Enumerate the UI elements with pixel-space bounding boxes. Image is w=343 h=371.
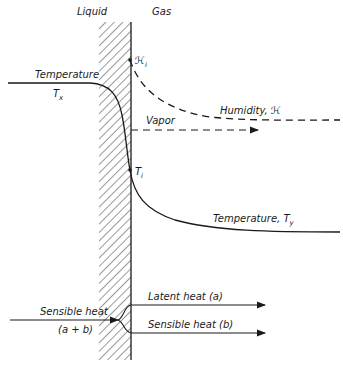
ti-point: [128, 168, 132, 172]
sensible-heat-sum-label: (a + b): [58, 324, 93, 335]
temperature-gas-label: Temperature, Ty: [213, 213, 295, 227]
tx-label: Tx: [53, 88, 64, 102]
sensible-heat-out-label: Sensible heat (b): [148, 319, 233, 330]
temperature-liquid-label: Temperature: [35, 69, 99, 80]
gas-region-label: Gas: [152, 6, 171, 17]
hi-label: ℋi: [135, 55, 147, 69]
latent-heat-label: Latent heat (a): [148, 291, 223, 302]
ti-label: Ti: [135, 166, 143, 180]
liquid-region-label: Liquid: [77, 6, 108, 17]
sensible-heat-in-label: Sensible heat: [40, 306, 109, 317]
vapor-label: Vapor: [146, 115, 176, 126]
hi-point: [128, 58, 132, 62]
humidity-label: Humidity, ℋ: [220, 105, 281, 116]
interface-diagram: Liquid Gas Temperature Tx Ti Temperature…: [0, 0, 343, 371]
